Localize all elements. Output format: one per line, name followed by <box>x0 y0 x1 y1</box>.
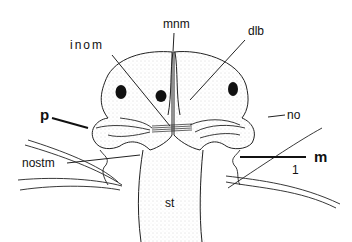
eye-center <box>156 90 167 102</box>
eye-left <box>116 85 127 99</box>
label-1: 1 <box>292 164 299 176</box>
label-dlb: dlb <box>248 25 264 37</box>
label-inom: inom <box>70 39 104 51</box>
label-no: no <box>287 109 300 121</box>
right-lobe <box>174 52 254 150</box>
label-st: st <box>165 197 174 209</box>
eye-right <box>228 82 238 96</box>
label-m: m <box>314 149 327 164</box>
label-mnm: mnm <box>163 18 190 30</box>
label-p: p <box>40 107 49 122</box>
label-nostm: nostm <box>22 157 55 169</box>
